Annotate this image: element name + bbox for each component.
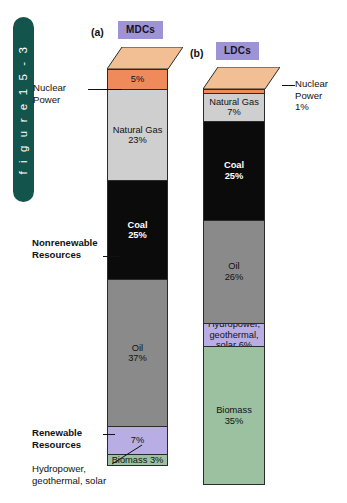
callout-nuclear-ldc: NuclearPower1% xyxy=(295,78,328,113)
callout-nuclear-mdc-line-1: Power xyxy=(33,94,66,106)
callout-hydropower-footnote-line-1: geothermal, solar xyxy=(32,475,106,487)
figure-number-label: f i g u r e 1 5 - 3 xyxy=(13,17,34,202)
callout-nuclear-ldc-line-2: 1% xyxy=(295,101,328,113)
panel-b-letter: (b) xyxy=(190,47,203,59)
bar-ldc: 59%41%Natural Gas7%Coal25%Oil26%Hydropow… xyxy=(203,67,280,485)
mdc-segment-0: 5% xyxy=(107,69,168,89)
leader-nonrenewable xyxy=(103,256,121,257)
callout-renewable: RenewableResources xyxy=(32,427,82,450)
callout-hydropower-footnote-line-0: Hydropower, xyxy=(32,463,106,475)
callout-nonrenewable-line-0: Nonrenewable xyxy=(32,237,98,249)
ldc-segment-1: Natural Gas7% xyxy=(203,93,265,121)
panel-a-letter: (a) xyxy=(91,26,104,38)
ldc-segment-2-label: Coal25% xyxy=(224,160,244,181)
leader-nuclear-mdc xyxy=(88,89,122,90)
ldc-segment-5: Biomass35% xyxy=(203,346,265,485)
callout-hydropower-footnote: Hydropower,geothermal, solar xyxy=(32,463,106,486)
figure-number-tab: f i g u r e 1 5 - 3 xyxy=(13,17,34,202)
mdc-segment-1: Natural Gas23% xyxy=(107,89,168,180)
mdc-segment-0-label: 5% xyxy=(131,74,144,84)
mdc-segment-2: Coal25% xyxy=(107,180,168,279)
mdc-segment-3: Oil37% xyxy=(107,279,168,426)
figure-canvas: f i g u r e 1 5 - 3 (a) MDCs (b) LDCs 90… xyxy=(0,0,347,503)
ldc-segment-1-label: Natural Gas7% xyxy=(209,97,259,118)
mdc-segment-2-label: Coal25% xyxy=(127,220,147,241)
ldc-segment-3-label: Oil26% xyxy=(225,261,244,282)
leader-renewable xyxy=(103,434,115,435)
ldc-segment-2: Coal25% xyxy=(203,121,265,220)
callout-nuclear-ldc-line-1: Power xyxy=(295,90,328,102)
mdc-segment-3-label: Oil37% xyxy=(128,343,147,364)
panel-b-tag-ldcs: LDCs xyxy=(216,42,259,60)
panel-a-tag-mdcs: MDCs xyxy=(118,21,163,39)
ldc-segment-4: Hydropower,geothermal,solar 6% xyxy=(203,323,265,347)
ldc-segment-4-label: Hydropower,geothermal,solar 6% xyxy=(208,323,260,347)
callout-nonrenewable-line-1: Resources xyxy=(32,249,98,261)
callout-nuclear-ldc-line-0: Nuclear xyxy=(295,78,328,90)
mdc-segment-1-label: Natural Gas23% xyxy=(113,125,163,146)
callout-nuclear-mdc-line-0: Nuclear xyxy=(33,82,66,94)
leader-hydropower xyxy=(112,443,150,465)
leader-nuclear-ldc xyxy=(282,85,295,86)
callout-renewable-line-1: Resources xyxy=(32,439,82,451)
callout-nuclear-mdc: NuclearPower xyxy=(33,82,66,105)
callout-nonrenewable: NonrenewableResources xyxy=(32,237,98,260)
ldc-segment-3: Oil26% xyxy=(203,220,265,323)
ldc-segment-5-label: Biomass35% xyxy=(216,405,252,426)
callout-renewable-line-0: Renewable xyxy=(32,427,82,439)
